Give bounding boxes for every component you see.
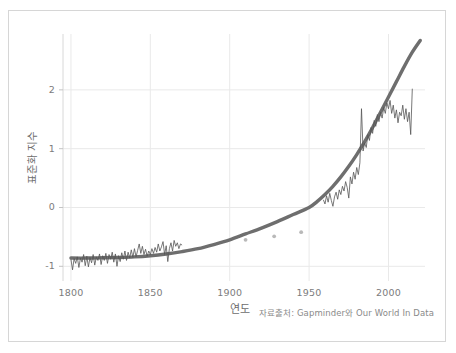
y-axis-title: 표준화 지수 bbox=[24, 113, 39, 203]
y-tick-label: -1 bbox=[15, 260, 55, 271]
source-attribution-note: 자료출처: Gapminder와 Our World In Data bbox=[259, 306, 434, 318]
scatter-point bbox=[272, 234, 276, 238]
y-tick-label: 0 bbox=[15, 201, 55, 212]
x-tick-label: 1900 bbox=[205, 287, 255, 298]
gridlines bbox=[63, 34, 425, 281]
x-tick-label: 1850 bbox=[125, 287, 175, 298]
x-tick-label: 2000 bbox=[363, 287, 413, 298]
data-series bbox=[71, 40, 420, 269]
scatter-point bbox=[244, 238, 248, 242]
x-tick-label: 1950 bbox=[284, 287, 334, 298]
trend-curve bbox=[71, 40, 420, 258]
x-tick-label: 1800 bbox=[46, 287, 96, 298]
scatter-point bbox=[299, 230, 303, 234]
tick-marks bbox=[59, 90, 63, 266]
y-tick-label: 2 bbox=[15, 84, 55, 95]
chart-figure: -1012 18001850190019502000 표준화 지수 연도 자료출… bbox=[0, 0, 456, 353]
annual-observation-line bbox=[323, 89, 412, 207]
